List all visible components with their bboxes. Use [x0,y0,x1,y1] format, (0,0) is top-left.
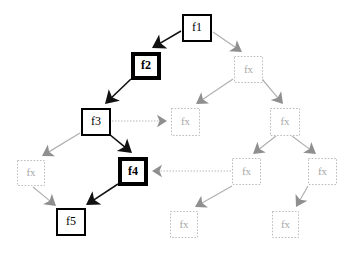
edge-fxF-to-fxH [296,186,308,207]
arrowhead-icon [43,194,56,206]
edge-line [200,186,232,204]
edge-line [158,31,181,44]
node-fxE[interactable]: fx [233,159,261,185]
node-label: f2 [141,58,151,72]
edge-f1-to-fxA [213,32,242,52]
arrowhead-icon [86,191,101,205]
node-f2[interactable]: f2 [133,54,159,78]
node-fxC[interactable]: fx [271,109,300,136]
node-label: f5 [66,214,76,228]
edge-fxC-to-fxE [253,136,276,154]
node-label: fx [280,115,290,127]
node-f3[interactable]: f3 [82,109,110,135]
edge-line [262,79,279,99]
edge-fxE-to-fxG [195,186,232,208]
node-label: fx [181,115,191,127]
edge-fxE-to-f4 [152,165,231,177]
arrowhead-icon [42,144,55,156]
arrowhead-icon [152,34,167,48]
node-f1[interactable]: f1 [183,15,211,41]
node-f4[interactable]: f4 [120,159,146,184]
edge-line [109,134,126,148]
edge-line [92,184,118,201]
node-fxF[interactable]: fx [309,159,337,185]
edge-fxC-to-fxF [292,136,316,154]
node-label: fx [26,166,36,178]
edge-f1-to-f2 [152,31,181,48]
edge-fxA-to-fxB [196,79,233,104]
edge-line [292,136,311,150]
node-fxA[interactable]: fx [235,57,263,83]
call-graph-diagram: f1f2f3f4f5fxfxfxfxfxfxfxfx [0,0,352,254]
edge-f4-to-f5 [86,184,118,205]
arrowhead-icon [296,194,308,207]
node-label: fx [318,165,328,177]
edge-line [201,79,233,101]
node-fxH[interactable]: fx [273,212,299,238]
node-f5[interactable]: f5 [57,209,85,235]
node-label: fx [244,63,254,75]
node-label: fx [179,218,189,230]
arrowhead-icon [229,40,242,52]
edge-fxD-to-f5 [33,187,56,206]
edge-line [47,133,80,153]
edge-f3-to-fxB [112,115,167,127]
edge-line [213,32,237,49]
arrowhead-icon [152,165,162,177]
arrowhead-icon [253,142,266,154]
arrowhead-icon [195,196,208,208]
edge-f3-to-fxD [42,133,80,156]
edge-f2-to-f3 [105,79,131,104]
edge-line [299,186,308,202]
node-fxB[interactable]: fx [172,109,200,136]
node-fxD[interactable]: fx [18,161,45,186]
node-label: f4 [128,164,138,178]
node-label: fx [242,165,252,177]
node-label: f1 [192,20,202,34]
node-fxG[interactable]: fx [171,212,198,238]
edge-line [110,79,131,99]
node-label: f3 [91,114,101,128]
arrowhead-icon [303,142,316,154]
edge-fxA-to-fxC [262,79,283,104]
node-label: fx [281,218,291,230]
arrowhead-icon [196,92,209,104]
arrowhead-icon [157,115,167,127]
edge-line [33,187,51,202]
edge-f3-to-f4 [109,134,132,153]
node-layer: f1f2f3f4f5fxfxfxfxfxfxfxfx [18,15,337,238]
edge-line [258,136,276,150]
diagram-canvas: f1f2f3f4f5fxfxfxfxfxfxfxfx [0,0,352,254]
